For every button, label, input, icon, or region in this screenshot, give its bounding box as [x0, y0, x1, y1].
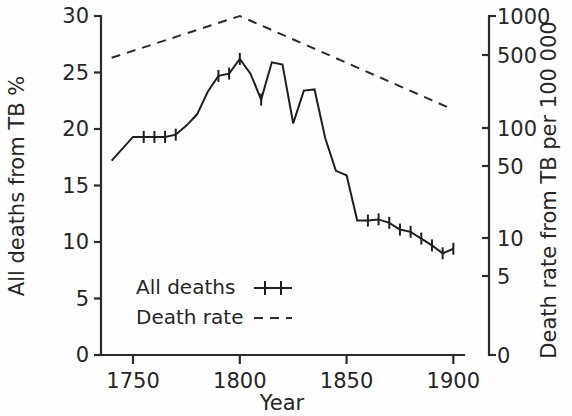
- left-tick-label-5: 5: [76, 287, 89, 311]
- chart-canvas: 051015202530 All deaths from TB % 175018…: [0, 0, 572, 416]
- left-tick-label-0: 0: [76, 343, 89, 367]
- x-tick-label-1900: 1900: [427, 369, 480, 393]
- x-axis-title: Year: [259, 391, 305, 415]
- tb-mortality-chart: 051015202530 All deaths from TB % 175018…: [0, 0, 572, 416]
- right-tick-label-0: 0: [497, 344, 510, 368]
- right-tick-label-50: 50: [497, 155, 524, 179]
- right-axis-title: Death rate from TB per 100 000: [537, 21, 561, 358]
- right-tick-label-100: 100: [497, 117, 537, 141]
- x-tick-label-1750: 1750: [106, 369, 159, 393]
- legend-marker-all-deaths: [254, 281, 292, 295]
- left-tick-label-20: 20: [62, 117, 89, 141]
- right-tick-label-10: 10: [497, 227, 524, 251]
- series-markers-all-deaths: [144, 53, 454, 259]
- right-axis: 0510501005001000 Death rate from TB per …: [482, 5, 561, 368]
- right-tick-label-5: 5: [497, 265, 510, 289]
- x-axis: 1750180018501900 Year: [101, 355, 480, 415]
- series-line-death-rate: [112, 16, 454, 110]
- left-axis: 051015202530 All deaths from TB %: [5, 4, 101, 367]
- plot-area: [112, 16, 454, 259]
- x-tick-label-1850: 1850: [320, 369, 373, 393]
- legend-label-all-deaths: All deaths: [136, 275, 235, 299]
- left-tick-label-25: 25: [62, 61, 89, 85]
- legend-label-death-rate: Death rate: [136, 305, 243, 329]
- left-tick-label-30: 30: [62, 4, 89, 28]
- left-tick-label-15: 15: [62, 174, 89, 198]
- left-axis-tick-labels: 051015202530: [62, 4, 89, 367]
- x-axis-ticks: [133, 355, 453, 364]
- x-tick-label-1800: 1800: [213, 369, 266, 393]
- x-axis-tick-labels: 1750180018501900: [106, 369, 480, 393]
- right-tick-label-500: 500: [497, 44, 537, 68]
- left-tick-label-10: 10: [62, 230, 89, 254]
- left-axis-title: All deaths from TB %: [5, 76, 29, 296]
- legend: All deaths Death rate: [136, 275, 292, 329]
